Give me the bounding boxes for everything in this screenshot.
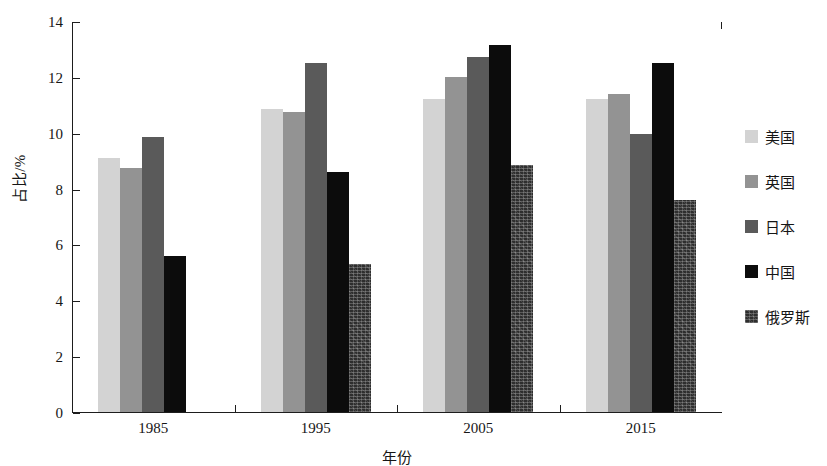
y-tick-label: 12 bbox=[48, 70, 63, 85]
bar bbox=[608, 94, 630, 412]
legend-swatch-uk bbox=[745, 175, 758, 188]
legend: 美国英国日本中国俄罗斯 bbox=[745, 128, 810, 324]
y-tick-label: 2 bbox=[56, 350, 64, 365]
y-tick-label: 8 bbox=[56, 182, 64, 197]
y-tick-label: 6 bbox=[56, 238, 64, 253]
y-tick-label: 0 bbox=[56, 406, 64, 421]
bar bbox=[142, 137, 164, 412]
bar bbox=[120, 168, 142, 412]
bar bbox=[305, 63, 327, 412]
legend-item-4: 中国 bbox=[745, 263, 810, 279]
y-tick-label: 14 bbox=[48, 15, 63, 30]
legend-label: 英国 bbox=[765, 171, 795, 192]
bar-chart: 占比/% 02468101214 1985199520052015 年份 美国英… bbox=[0, 0, 827, 466]
bar bbox=[283, 112, 305, 412]
legend-swatch-japan bbox=[745, 220, 758, 233]
bar bbox=[674, 200, 696, 412]
x-category-label-1985: 1985 bbox=[138, 420, 168, 437]
y-tick-label: 4 bbox=[56, 294, 64, 309]
y-axis-title: 占比/% bbox=[8, 119, 29, 239]
legend-item-2: 英国 bbox=[745, 173, 810, 189]
bar bbox=[467, 57, 489, 412]
legend-swatch-russia bbox=[745, 310, 758, 323]
y-tick-label: 10 bbox=[48, 126, 63, 141]
bar bbox=[423, 99, 445, 412]
bars-layer bbox=[72, 22, 722, 413]
bar bbox=[349, 264, 371, 412]
legend-label: 中国 bbox=[765, 261, 795, 282]
x-category-label-2005: 2005 bbox=[463, 420, 493, 437]
bar bbox=[98, 158, 120, 412]
bar bbox=[652, 63, 674, 412]
legend-label: 俄罗斯 bbox=[765, 306, 810, 327]
bar bbox=[630, 134, 652, 412]
bar bbox=[586, 99, 608, 412]
bar bbox=[489, 45, 511, 412]
x-category-label-2015: 2015 bbox=[626, 420, 656, 437]
bar bbox=[511, 165, 533, 412]
legend-label: 美国 bbox=[765, 126, 795, 147]
x-category-label-1995: 1995 bbox=[301, 420, 331, 437]
y-tick-mark bbox=[73, 413, 80, 414]
bar bbox=[445, 77, 467, 412]
legend-label: 日本 bbox=[765, 216, 795, 237]
legend-swatch-usa bbox=[745, 130, 758, 143]
plot-area: 02468101214 bbox=[72, 22, 722, 413]
legend-item-5: 俄罗斯 bbox=[745, 308, 810, 324]
bar bbox=[261, 109, 283, 412]
legend-item-3: 日本 bbox=[745, 218, 810, 234]
bar bbox=[327, 172, 349, 412]
legend-swatch-china bbox=[745, 265, 758, 278]
x-axis-title: 年份 bbox=[72, 446, 722, 466]
legend-item-1: 美国 bbox=[745, 128, 810, 144]
bar bbox=[164, 256, 186, 412]
